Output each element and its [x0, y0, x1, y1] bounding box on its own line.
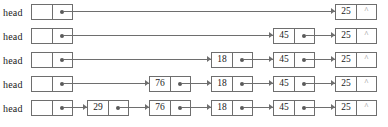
linked-list-row: head76184525^ — [0, 73, 388, 97]
node-pointer-cell — [52, 29, 72, 43]
list-node: 25^ — [335, 28, 377, 44]
list-node: 45 — [273, 100, 315, 116]
pointer-arrowhead-icon — [83, 104, 87, 110]
node-pointer-cell — [52, 53, 72, 67]
node-value-cell: 29 — [88, 101, 108, 115]
node-null-cell: ^ — [356, 101, 376, 115]
node-pointer-cell — [232, 77, 252, 91]
list-node: 45 — [273, 76, 315, 92]
list-node: 25^ — [335, 52, 377, 68]
node-value-cell: 25 — [336, 53, 356, 67]
node-pointer-cell — [108, 101, 128, 115]
node-pointer-cell — [294, 77, 314, 91]
pointer-arrowhead-icon — [331, 56, 335, 62]
head-label: head — [3, 77, 23, 93]
node-value-cell: 25 — [336, 5, 356, 19]
node-pointer-cell — [170, 101, 190, 115]
pointer-arrowhead-icon — [331, 32, 335, 38]
head-label: head — [3, 53, 23, 69]
head-cell-empty — [32, 101, 52, 115]
null-pointer-icon: ^ — [365, 55, 369, 63]
node-value-cell: 18 — [212, 77, 232, 91]
node-pointer-cell — [232, 53, 252, 67]
node-pointer-cell — [294, 29, 314, 43]
linked-list-row: head4525^ — [0, 25, 388, 49]
list-node: 29 — [87, 100, 129, 116]
list-node: 25^ — [335, 100, 377, 116]
node-value-cell: 18 — [212, 53, 232, 67]
node-null-cell: ^ — [356, 53, 376, 67]
head-node — [31, 4, 73, 20]
pointer-arrowhead-icon — [331, 80, 335, 86]
null-pointer-icon: ^ — [365, 79, 369, 87]
head-node — [31, 100, 73, 116]
pointer-arrowhead-icon — [269, 80, 273, 86]
list-node: 18 — [211, 100, 253, 116]
pointer-arrowhead-icon — [207, 56, 211, 62]
list-node: 45 — [273, 52, 315, 68]
head-cell-empty — [32, 53, 52, 67]
pointer-arrowhead-icon — [269, 104, 273, 110]
node-pointer-cell — [232, 101, 252, 115]
node-value-cell: 18 — [212, 101, 232, 115]
linked-list-row: head2976184525^ — [0, 97, 388, 121]
pointer-arrowhead-icon — [145, 80, 149, 86]
head-label: head — [3, 29, 23, 45]
head-node — [31, 52, 73, 68]
node-null-cell: ^ — [356, 29, 376, 43]
head-cell-empty — [32, 77, 52, 91]
null-pointer-icon: ^ — [365, 7, 369, 15]
pointer-link-line — [63, 35, 273, 36]
pointer-arrowhead-icon — [207, 80, 211, 86]
pointer-arrowhead-icon — [331, 8, 335, 14]
linked-list-row: head25^ — [0, 1, 388, 25]
node-null-cell: ^ — [356, 77, 376, 91]
node-null-cell: ^ — [356, 5, 376, 19]
node-pointer-cell — [294, 101, 314, 115]
head-node — [31, 76, 73, 92]
list-node: 25^ — [335, 4, 377, 20]
head-node — [31, 28, 73, 44]
node-value-cell: 76 — [150, 101, 170, 115]
head-cell-empty — [32, 5, 52, 19]
head-label: head — [3, 5, 23, 21]
pointer-link-line — [63, 59, 211, 60]
list-node: 76 — [149, 100, 191, 116]
null-pointer-icon: ^ — [365, 103, 369, 111]
node-pointer-cell — [52, 5, 72, 19]
pointer-arrowhead-icon — [207, 104, 211, 110]
pointer-link-line — [63, 11, 335, 12]
linked-list-row: head184525^ — [0, 49, 388, 73]
pointer-arrowhead-icon — [145, 104, 149, 110]
head-label: head — [3, 101, 23, 117]
node-pointer-cell — [52, 77, 72, 91]
node-value-cell: 76 — [150, 77, 170, 91]
list-node: 25^ — [335, 76, 377, 92]
node-pointer-cell — [294, 53, 314, 67]
pointer-link-line — [63, 83, 149, 84]
node-pointer-cell — [52, 101, 72, 115]
node-value-cell: 45 — [274, 77, 294, 91]
node-pointer-cell — [170, 77, 190, 91]
node-value-cell: 45 — [274, 53, 294, 67]
pointer-arrowhead-icon — [331, 104, 335, 110]
list-node: 76 — [149, 76, 191, 92]
node-value-cell: 45 — [274, 101, 294, 115]
list-node: 45 — [273, 28, 315, 44]
list-node: 18 — [211, 52, 253, 68]
null-pointer-icon: ^ — [365, 31, 369, 39]
pointer-arrowhead-icon — [269, 56, 273, 62]
node-value-cell: 25 — [336, 29, 356, 43]
node-value-cell: 25 — [336, 77, 356, 91]
linked-list-diagram: head25^head4525^head184525^head76184525^… — [0, 0, 388, 127]
pointer-arrowhead-icon — [269, 32, 273, 38]
head-cell-empty — [32, 29, 52, 43]
node-value-cell: 45 — [274, 29, 294, 43]
node-value-cell: 25 — [336, 101, 356, 115]
list-node: 18 — [211, 76, 253, 92]
